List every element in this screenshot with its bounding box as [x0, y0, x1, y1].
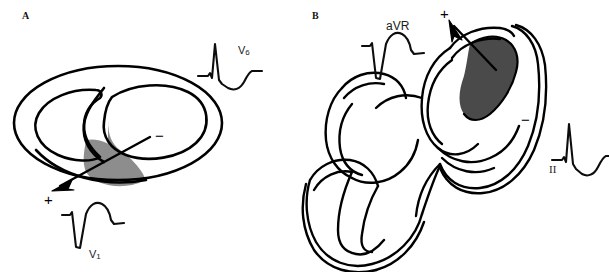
- panel-a-illustration: [0, 0, 290, 272]
- lead-label-v1-subscript: 1: [96, 252, 100, 261]
- ecg-trace-v1: [62, 203, 124, 248]
- panel-b-middle-band-rim-2: [344, 83, 384, 98]
- panel-b-illustration: [300, 0, 609, 272]
- lead-label-v6: V6: [238, 44, 250, 57]
- panel-b-lower-inner-wall: [361, 186, 378, 252]
- lead-label-v6-subscript: 6: [245, 48, 249, 57]
- panel-b-middle-band-inner: [340, 104, 363, 175]
- ecg-trace-v6: [198, 44, 262, 89]
- panel-b-infarct-shape: [460, 37, 518, 120]
- lead-label-ii: II: [549, 163, 556, 175]
- lead-label-avr: aVR: [386, 19, 409, 33]
- panel-b-middle-band-lower: [352, 140, 418, 183]
- ecg-trace-ii: [552, 124, 609, 175]
- panel-b-positive-pole-label: +: [440, 6, 449, 21]
- panel-a-positive-pole-label: +: [44, 192, 53, 207]
- panel-b-negative-pole-label: −: [521, 112, 530, 127]
- panel-a-lv-cavity-outline: [104, 85, 207, 159]
- panel-b-mid-connector-inner: [376, 95, 422, 108]
- lead-label-v1: V1: [89, 248, 101, 261]
- panel-b-upper-inner-wall-2: [428, 60, 452, 144]
- panel-b-lower-band-outer-2: [303, 184, 376, 272]
- panel-a-negative-pole-label: −: [155, 128, 164, 143]
- panel-b-middle-band-rim: [342, 73, 406, 98]
- figure-root: A V6 V1 + − B: [0, 0, 609, 272]
